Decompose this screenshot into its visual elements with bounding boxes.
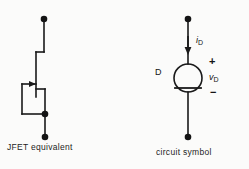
polarity-minus-label: − <box>210 87 216 98</box>
jfet-equivalent-caption: JFET equivalent <box>7 142 73 152</box>
device-label: D <box>155 68 162 77</box>
gate-source-junction-dot <box>42 111 49 118</box>
current-label: iD <box>196 36 203 46</box>
current-direction-arrow <box>185 36 192 55</box>
voltage-subscript: D <box>214 76 219 83</box>
circuit-symbol-schematic <box>125 0 249 169</box>
circuit-symbol-figure: iD vD D + − circuit symbol <box>125 0 249 169</box>
cathode-terminal-dot <box>185 134 192 141</box>
jfet-equivalent-figure: JFET equivalent <box>0 0 125 169</box>
source-terminal-dot <box>42 134 49 141</box>
drain-terminal-dot <box>41 16 48 23</box>
current-subscript: D <box>198 39 203 46</box>
anode-terminal-dot <box>185 16 192 23</box>
polarity-plus-label: + <box>209 56 215 67</box>
figure-canvas: JFET equivalent i <box>0 0 249 169</box>
gate-arrow-icon <box>29 81 36 87</box>
voltage-label: vD <box>209 73 219 83</box>
circuit-symbol-caption: circuit symbol <box>156 147 212 157</box>
